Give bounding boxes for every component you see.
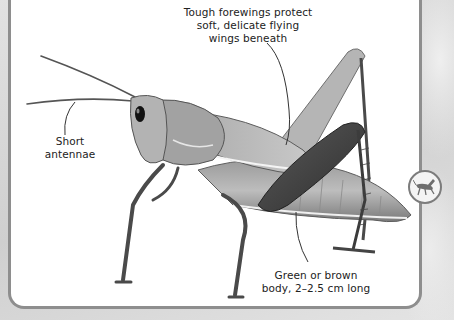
antennae <box>27 56 135 104</box>
annotation-line: Green or brown <box>251 269 381 282</box>
annotation-line: Short <box>35 135 105 148</box>
annotation-line: body, 2–2.5 cm long <box>251 282 381 295</box>
antennae-annotation: Short antennae <box>35 135 105 161</box>
content-panel: Tough forewings protect soft, delicate f… <box>8 0 422 309</box>
grasshopper-icon <box>413 177 437 197</box>
forewings-annotation: Tough forewings protect soft, delicate f… <box>173 6 323 45</box>
annotation-line: Tough forewings protect <box>173 6 323 19</box>
annotation-line: antennae <box>35 148 105 161</box>
annotation-line: soft, delicate flying <box>173 19 323 32</box>
eye <box>135 106 145 122</box>
annotation-line: wings beneath <box>173 32 323 45</box>
grasshopper-badge <box>408 170 442 204</box>
head <box>130 95 167 163</box>
body-annotation: Green or brown body, 2–2.5 cm long <box>251 269 381 295</box>
